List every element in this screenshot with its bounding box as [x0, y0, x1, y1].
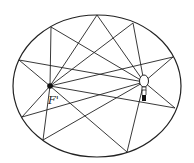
ray [19, 60, 144, 86]
ray [50, 27, 144, 86]
ray [50, 82, 175, 108]
reflected-rays [19, 15, 175, 152]
lightbulb-icon [140, 75, 149, 101]
ellipse-outline [13, 15, 181, 157]
ray [50, 82, 144, 152]
ellipse-diagram: F' [0, 0, 194, 163]
focus-label: F' [47, 94, 59, 107]
focus-dot-icon [47, 83, 53, 89]
ray [43, 82, 144, 140]
